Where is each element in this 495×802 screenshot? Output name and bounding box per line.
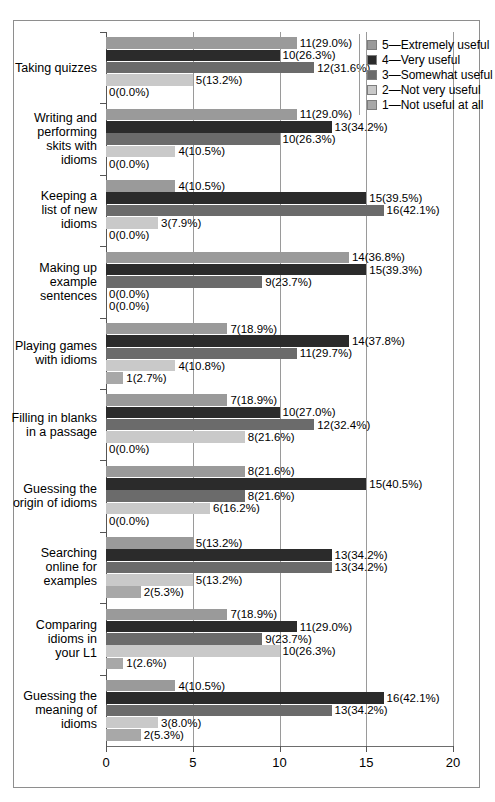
bar-row: 7(18.9%) xyxy=(106,394,453,406)
bar[interactable] xyxy=(106,74,193,86)
bar-value-label: 10(26.3%) xyxy=(280,645,336,657)
legend-item[interactable]: 1—Not useful at all xyxy=(367,97,481,112)
legend: 5—Extremely useful4—Very useful3—Somewha… xyxy=(359,34,481,115)
bar-row: 8(21.6%) xyxy=(106,490,453,502)
bar[interactable] xyxy=(106,372,123,384)
bar[interactable] xyxy=(106,621,297,633)
bar-row: 4(10.5%) xyxy=(106,146,453,158)
legend-label: 3—Somewhat useful xyxy=(382,68,493,82)
legend-item[interactable]: 4—Very useful xyxy=(367,52,481,67)
bar-row: 13(34.2%) xyxy=(106,121,453,133)
bar[interactable] xyxy=(106,121,332,133)
bar-group: Filling in blanks in a passage7(18.9%)10… xyxy=(106,389,453,460)
bar-group: Guessing the origin of idioms8(21.6%)15(… xyxy=(106,460,453,531)
bar-row: 2(5.3%) xyxy=(106,586,453,598)
bar[interactable] xyxy=(106,609,227,621)
bar-row: 15(40.5%) xyxy=(106,478,453,490)
bar-row: 10(26.3%) xyxy=(106,645,453,657)
bar[interactable] xyxy=(106,133,280,145)
bar-value-label: 0(0.0%) xyxy=(106,515,149,527)
bar-value-label: 12(32.4%) xyxy=(314,419,370,431)
bar[interactable] xyxy=(106,252,349,264)
bar-value-label: 8(21.6%) xyxy=(245,431,295,443)
bar[interactable] xyxy=(106,109,297,121)
bar-row: 0(0.0%) xyxy=(106,229,453,241)
x-tick-label: 5 xyxy=(189,755,196,770)
legend-item[interactable]: 3—Somewhat useful xyxy=(367,67,481,82)
bar[interactable] xyxy=(106,348,297,360)
bar-row: 0(0.0%) xyxy=(106,288,453,300)
bar-value-label: 13(34.2%) xyxy=(332,549,388,561)
bar-value-label: 10(27.0%) xyxy=(280,406,336,418)
bar-value-label: 8(21.6%) xyxy=(245,490,295,502)
bar[interactable] xyxy=(106,658,123,670)
legend-item[interactable]: 2—Not very useful xyxy=(367,82,481,97)
bar[interactable] xyxy=(106,680,175,692)
bar[interactable] xyxy=(106,50,280,62)
category-label: Searching online for examples xyxy=(5,546,97,588)
bar[interactable] xyxy=(106,264,366,276)
bar-row: 1(2.6%) xyxy=(106,658,453,670)
bar-row: 7(18.9%) xyxy=(106,323,453,335)
bar-row: 5(13.2%) xyxy=(106,574,453,586)
legend-item[interactable]: 5—Extremely useful xyxy=(367,37,481,52)
bar-value-label: 7(18.9%) xyxy=(227,608,277,620)
bar[interactable] xyxy=(106,478,366,490)
bar[interactable] xyxy=(106,549,332,561)
bar[interactable] xyxy=(106,62,314,74)
bar-value-label: 5(13.2%) xyxy=(193,74,243,86)
bar[interactable] xyxy=(106,574,193,586)
bar-value-label: 4(10.8%) xyxy=(175,360,225,372)
bar-row: 12(32.4%) xyxy=(106,419,453,431)
bar[interactable] xyxy=(106,146,175,158)
bar-value-label: 13(34.2%) xyxy=(332,121,388,133)
bar[interactable] xyxy=(106,360,175,372)
bar-value-label: 2(5.3%) xyxy=(141,729,184,741)
bar[interactable] xyxy=(106,466,245,478)
bar-row: 0(0.0%) xyxy=(106,158,453,170)
bar[interactable] xyxy=(106,490,245,502)
x-tick-label: 0 xyxy=(102,755,109,770)
bar[interactable] xyxy=(106,323,227,335)
bar[interactable] xyxy=(106,335,349,347)
bar[interactable] xyxy=(106,431,245,443)
bar[interactable] xyxy=(106,217,158,229)
bar[interactable] xyxy=(106,180,175,192)
bar[interactable] xyxy=(106,645,280,657)
bar-row: 1(2.7%) xyxy=(106,372,453,384)
bar-row: 4(10.5%) xyxy=(106,180,453,192)
bar-row: 15(39.5%) xyxy=(106,192,453,204)
bar[interactable] xyxy=(106,586,141,598)
bar[interactable] xyxy=(106,633,262,645)
bar[interactable] xyxy=(106,276,262,288)
bar[interactable] xyxy=(106,692,384,704)
category-label: Playing games with idioms xyxy=(5,339,97,367)
bar[interactable] xyxy=(106,192,366,204)
bar-value-label: 16(42.1%) xyxy=(384,204,440,216)
bar-value-label: 5(13.2%) xyxy=(193,574,243,586)
bar[interactable] xyxy=(106,562,332,574)
bar[interactable] xyxy=(106,37,297,49)
category-label: Guessing the origin of idioms xyxy=(5,482,97,510)
bar-value-label: 7(18.9%) xyxy=(227,323,277,335)
bar-value-label: 0(0.0%) xyxy=(106,300,149,312)
bar[interactable] xyxy=(106,717,158,729)
bar[interactable] xyxy=(106,419,314,431)
bar[interactable] xyxy=(106,205,384,217)
bar-row: 6(16.2%) xyxy=(106,503,453,515)
bar-value-label: 4(10.5%) xyxy=(175,680,225,692)
bar-value-label: 10(26.3%) xyxy=(280,133,336,145)
bar-row: 16(42.1%) xyxy=(106,205,453,217)
category-label: Filling in blanks in a passage xyxy=(5,411,97,439)
bar-row: 5(13.2%) xyxy=(106,537,453,549)
bar[interactable] xyxy=(106,407,280,419)
bar[interactable] xyxy=(106,537,193,549)
bar[interactable] xyxy=(106,729,141,741)
bar-row: 10(27.0%) xyxy=(106,407,453,419)
bar[interactable] xyxy=(106,503,210,515)
bar[interactable] xyxy=(106,705,332,717)
bar-value-label: 5(13.2%) xyxy=(193,537,243,549)
bar-value-label: 15(40.5%) xyxy=(366,478,422,490)
bar-value-label: 7(18.9%) xyxy=(227,394,277,406)
bar[interactable] xyxy=(106,394,227,406)
